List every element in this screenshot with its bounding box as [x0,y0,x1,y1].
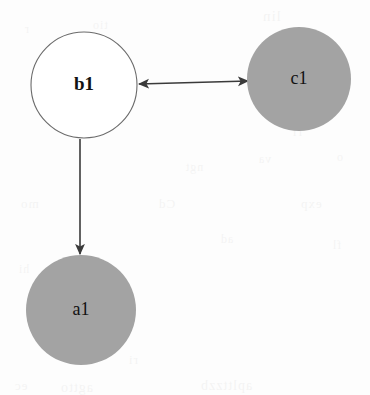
node-a1[interactable]: a1 [26,255,136,365]
node-c1-label: c1 [291,68,308,88]
diagram-canvas: lintiorringtvaomoCdexpadflhiriecagttoapl… [0,0,370,395]
node-b1-label: b1 [74,73,94,94]
edge-b1-to-c1 [139,81,248,84]
node-b1[interactable]: b1 [31,32,137,138]
node-layer: c1 a1 b1 [26,27,351,365]
node-a1-label: a1 [73,299,90,319]
node-c1[interactable]: c1 [247,27,351,131]
graph-diagram: c1 a1 b1 [0,0,370,395]
